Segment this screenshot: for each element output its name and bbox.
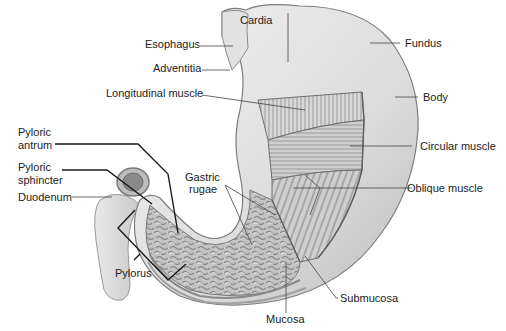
label-circular-muscle: Circular muscle bbox=[420, 140, 496, 153]
label-pyloric-antrum-line2: antrum bbox=[18, 139, 52, 152]
label-pylorus: Pylorus bbox=[115, 267, 152, 280]
label-esophagus: Esophagus bbox=[145, 38, 200, 51]
label-mucosa: Mucosa bbox=[266, 313, 305, 326]
duodenum-shape bbox=[95, 194, 140, 300]
label-cardia: Cardia bbox=[240, 14, 272, 27]
stomach-diagram: Cardia Esophagus Adventitia Longitudinal… bbox=[0, 0, 506, 331]
label-pyloric-sphincter-line2: sphincter bbox=[18, 174, 63, 187]
label-gastric-rugae-line2: rugae bbox=[189, 183, 217, 196]
label-pyloric-antrum-line1: Pyloric bbox=[18, 126, 51, 139]
label-duodenum: Duodenum bbox=[18, 191, 72, 204]
label-body: Body bbox=[423, 91, 448, 104]
label-fundus: Fundus bbox=[405, 37, 442, 50]
label-longitudinal-muscle: Longitudinal muscle bbox=[106, 87, 203, 100]
label-adventitia: Adventitia bbox=[153, 62, 201, 75]
label-oblique-muscle: Oblique muscle bbox=[407, 182, 483, 195]
label-pyloric-sphincter-line1: Pyloric bbox=[18, 161, 51, 174]
label-submucosa: Submucosa bbox=[340, 292, 398, 305]
